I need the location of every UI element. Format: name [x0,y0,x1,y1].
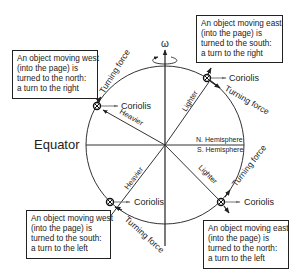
marker-upper-left: Coriolis Turning force [94,47,152,111]
equator-label: Equator [34,137,80,152]
callout-line: turned to the south: [31,234,106,244]
coriolis-label-lower-right: Coriolis [244,197,275,207]
n-hemisphere-label: N. Hemisphere [196,136,243,144]
callout-line: turned to the north: [208,244,284,254]
callout-line: a turn to the right [17,84,93,94]
callout-line: An object moving east [201,19,278,29]
coriolis-label-upper-right: Coriolis [229,73,260,83]
turning-force-label-upper-left: Turning force [97,47,132,95]
callout-line: An object moving west [31,214,106,224]
callout-line: a turn to the left [31,244,106,254]
callout-line: (into the page) is [31,224,106,234]
callout-line: (into the page) is [201,29,278,39]
callout-upper-left: An object moving west (into the page) is… [12,50,98,99]
omega-label: ω [161,38,169,49]
callout-line: a turn to the right [201,49,278,59]
callout-line: turned to the south: [201,39,278,49]
marker-lower-right: Coriolis Turning force [218,143,275,213]
coriolis-label-lower-left: Coriolis [134,197,165,207]
callout-upper-right: An object moving east (into the page) is… [196,15,283,63]
heavier-label-lower: Heavier [122,165,145,191]
marker-lower-left: Coriolis Turning force [107,197,167,255]
callout-line: (into the page) is [17,64,93,74]
s-hemisphere-label: S. Hemisphere [197,146,243,154]
callout-line: An object moving west [17,54,93,64]
coriolis-label-upper-left: Coriolis [121,101,152,111]
callout-lower-right: An object moving east (into the page) is… [203,220,289,269]
turning-force-label-lower-left: Turning force [123,214,167,255]
callout-lower-left: An object moving west (into the page) is… [26,210,111,259]
radial-line-lower-left [106,145,165,222]
callout-line: (into the page) is [208,234,284,244]
callout-line: turned to the north: [17,74,93,84]
marker-upper-right: Coriolis Turning force [204,68,272,117]
callout-line: An object moving east [208,224,284,234]
lighter-label-lower: Lighter [197,163,220,186]
callout-line: a turn to the left [208,254,284,264]
